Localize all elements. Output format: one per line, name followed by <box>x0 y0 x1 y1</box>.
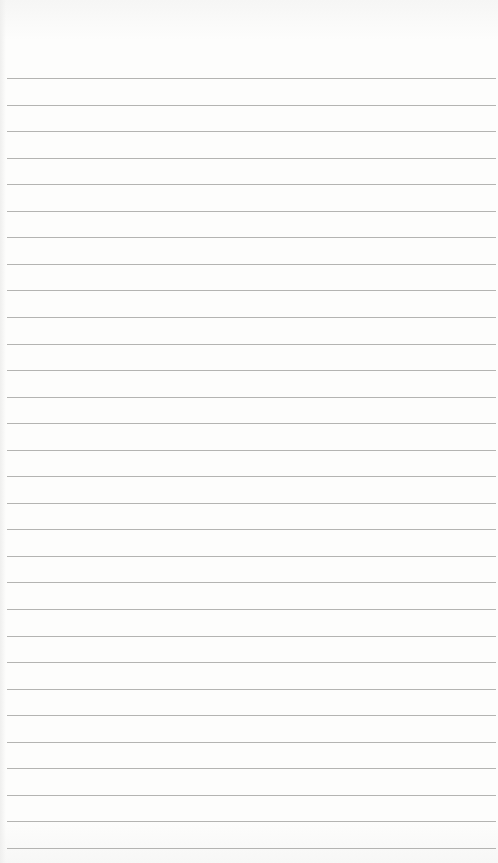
ruled-line <box>7 184 496 185</box>
ruled-line <box>7 582 496 583</box>
ruled-line <box>7 158 496 159</box>
ruled-line <box>7 715 496 716</box>
ruled-line <box>7 211 496 212</box>
ruled-line <box>7 105 496 106</box>
ruled-line <box>7 529 496 530</box>
ruled-line <box>7 290 496 291</box>
ruled-line <box>7 768 496 769</box>
lined-paper <box>0 0 498 863</box>
ruled-line <box>7 556 496 557</box>
ruled-line <box>7 636 496 637</box>
ruled-line <box>7 848 496 849</box>
ruled-line <box>7 237 496 238</box>
ruled-line <box>7 78 496 79</box>
ruled-line <box>7 742 496 743</box>
ruled-line <box>7 662 496 663</box>
ruled-line <box>7 689 496 690</box>
ruled-line <box>7 317 496 318</box>
ruled-line <box>7 503 496 504</box>
ruled-line <box>7 821 496 822</box>
ruled-line <box>7 344 496 345</box>
ruled-line <box>7 264 496 265</box>
ruled-line <box>7 131 496 132</box>
ruled-line <box>7 370 496 371</box>
ruled-line <box>7 450 496 451</box>
ruled-line <box>7 476 496 477</box>
ruled-line <box>7 423 496 424</box>
ruled-line <box>7 795 496 796</box>
ruled-line <box>7 397 496 398</box>
ruled-line <box>7 609 496 610</box>
